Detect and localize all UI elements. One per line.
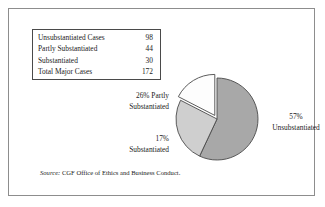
source-note: Source: CGF Office of Ethics and Busines… [40, 169, 180, 176]
slice-label-substantiated-line1: 17% [101, 134, 169, 145]
summary-table: Unsubstantiated Cases 98 Partly Substant… [32, 29, 161, 80]
row-label: Substantiated [33, 55, 131, 66]
slice-label-partly-substantiated: 26% Partly Substantiated [101, 91, 169, 112]
pie-chart [159, 69, 267, 169]
table-row: Substantiated 30 [33, 55, 160, 66]
source-text: CGF Office of Ethics and Business Conduc… [62, 169, 180, 176]
row-value: 44 [131, 43, 160, 54]
row-value: 98 [131, 32, 160, 43]
table-row: Total Major Cases 172 [33, 66, 160, 77]
source-prefix: Source: [40, 169, 60, 176]
row-label: Partly Substantiated [33, 43, 131, 54]
slice-label-partly-line1: 26% Partly [101, 91, 169, 102]
slice-label-unsubstantiated-line1: 57% [261, 112, 325, 123]
figure-frame: Unsubstantiated Cases 98 Partly Substant… [8, 8, 315, 196]
slice-label-substantiated: 17% Substantiated [101, 134, 169, 155]
row-label: Total Major Cases [33, 66, 131, 77]
table-row: Unsubstantiated Cases 98 [33, 32, 160, 43]
slice-label-substantiated-line2: Substantiated [101, 145, 169, 156]
slice-label-unsubstantiated-line2: Unsubstantiated [261, 123, 325, 134]
case-counts-table: Unsubstantiated Cases 98 Partly Substant… [33, 32, 160, 77]
row-value: 172 [131, 66, 160, 77]
row-label: Unsubstantiated Cases [33, 32, 131, 43]
slice-label-partly-line2: Substantiated [101, 102, 169, 113]
row-value: 30 [131, 55, 160, 66]
table-row: Partly Substantiated 44 [33, 43, 160, 54]
slice-label-unsubstantiated: 57% Unsubstantiated [261, 112, 325, 133]
pie-chart-svg [159, 69, 267, 169]
